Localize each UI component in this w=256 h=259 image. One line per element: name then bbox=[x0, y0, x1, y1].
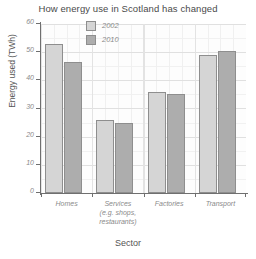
y-axis-line bbox=[40, 22, 41, 195]
y-axis-ticks: 0102030405060 bbox=[0, 24, 40, 193]
x-category-label: Transport bbox=[192, 199, 248, 208]
x-category-label: Homes bbox=[39, 199, 95, 208]
y-tick-label: 0 bbox=[30, 187, 34, 194]
x-category-label-line: Factories bbox=[141, 199, 197, 208]
legend-label: 2002 bbox=[102, 21, 119, 30]
bar-2002 bbox=[96, 120, 114, 193]
bar-chart: How energy use in Scotland has changed E… bbox=[0, 0, 256, 259]
plot-area bbox=[41, 24, 246, 193]
bar-2010 bbox=[64, 62, 82, 193]
bar-group bbox=[195, 24, 246, 193]
x-tick-mark bbox=[195, 193, 196, 197]
bar-series-container bbox=[41, 24, 246, 193]
x-axis-category-labels: HomesServices(e.g. shops,restaurants)Fac… bbox=[41, 199, 246, 239]
x-category-label-line: restaurants) bbox=[90, 217, 146, 226]
bar-group bbox=[41, 24, 92, 193]
y-tick-label: 40 bbox=[26, 74, 34, 81]
bar-2010 bbox=[218, 51, 236, 193]
y-tick-label: 60 bbox=[26, 18, 34, 25]
bar-2002 bbox=[199, 55, 217, 193]
bar-group bbox=[92, 24, 143, 193]
y-tick-label: 20 bbox=[26, 131, 34, 138]
x-tick-mark bbox=[245, 193, 246, 197]
bar-group bbox=[144, 24, 195, 193]
legend-label: 2010 bbox=[102, 35, 119, 44]
x-category-label-line: Homes bbox=[39, 199, 95, 208]
x-category-label-line: Transport bbox=[192, 199, 248, 208]
legend-swatch bbox=[86, 21, 96, 31]
x-category-label-line: (e.g. shops, bbox=[90, 208, 146, 217]
bar-2002 bbox=[45, 44, 63, 193]
y-tick-label: 50 bbox=[26, 46, 34, 53]
y-tick-label: 10 bbox=[26, 159, 34, 166]
x-category-label-line: Services bbox=[90, 199, 146, 208]
y-tick-label: 30 bbox=[26, 103, 34, 110]
bar-2010 bbox=[167, 94, 185, 193]
x-tick-mark bbox=[92, 193, 93, 197]
x-category-label: Services(e.g. shops,restaurants) bbox=[90, 199, 146, 226]
x-category-label: Factories bbox=[141, 199, 197, 208]
x-axis-title: Sector bbox=[0, 238, 256, 248]
bar-2010 bbox=[115, 123, 133, 193]
x-tick-mark bbox=[41, 193, 42, 197]
x-axis-ticks bbox=[41, 193, 246, 198]
x-tick-mark bbox=[144, 193, 145, 197]
chart-title: How energy use in Scotland has changed bbox=[0, 3, 256, 14]
bar-2002 bbox=[148, 92, 166, 193]
legend-swatch bbox=[86, 35, 96, 45]
